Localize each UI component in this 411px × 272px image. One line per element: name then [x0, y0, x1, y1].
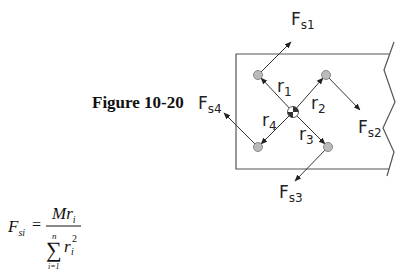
bolt-3 — [324, 143, 333, 152]
bolt-1 — [254, 71, 263, 80]
svg-text:i=1: i=1 — [48, 262, 60, 271]
label-r2: r2 — [311, 93, 326, 116]
svg-text:Mri: Mri — [51, 204, 76, 225]
break-line — [383, 42, 395, 176]
label-fs3: Fs3 — [279, 182, 303, 205]
label-r4: r4 — [262, 110, 277, 133]
svg-text:i: i — [71, 246, 74, 257]
bolt-4 — [254, 143, 263, 152]
label-fs4: Fs4 — [198, 93, 222, 116]
label-fs1: Fs1 — [291, 9, 315, 32]
svg-text:∑: ∑ — [46, 237, 62, 262]
svg-text:r: r — [64, 237, 71, 256]
svg-text:Fsi: Fsi — [7, 217, 25, 238]
svg-text:2: 2 — [72, 233, 77, 244]
shear-force-equation: Fsi = Mri n ∑ r i 2 i=1 — [4, 202, 124, 272]
label-r3: r3 — [299, 124, 314, 147]
centroid-icon — [288, 107, 299, 118]
label-fs2: Fs2 — [358, 117, 382, 140]
label-r1: r1 — [277, 76, 292, 99]
svg-text:=: = — [32, 216, 41, 233]
bolt-2 — [322, 71, 331, 80]
